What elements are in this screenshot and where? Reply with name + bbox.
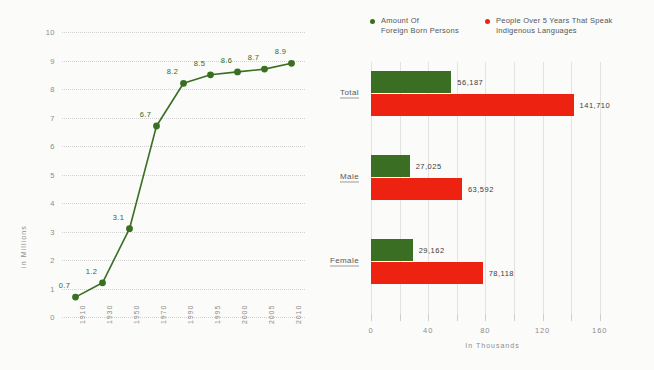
y-axis-tick-label: 0 — [50, 313, 55, 322]
x-axis-tick-label: 0 — [368, 326, 373, 335]
data-point — [234, 69, 241, 76]
bar — [371, 239, 413, 261]
bar — [371, 71, 451, 93]
x-axis-tick-label: 1910 — [79, 305, 86, 324]
legend-dot-icon — [485, 19, 490, 24]
y-axis-tick-label: 4 — [50, 199, 55, 208]
data-point — [180, 80, 187, 87]
y-axis-tick-label: 8 — [50, 85, 55, 94]
y-axis-tick-label: 6 — [50, 142, 55, 151]
axis-tick — [543, 314, 544, 321]
bar-value-label: 63,592 — [468, 184, 494, 193]
x-axis-tick-label: 1995 — [214, 305, 221, 324]
axis-tick — [457, 314, 458, 321]
axis-tick — [371, 314, 372, 321]
legend-label-line: Foreign Born Persons — [381, 26, 459, 36]
bar — [371, 155, 410, 177]
axis-tick — [600, 314, 601, 321]
axis-tick — [485, 314, 486, 321]
x-axis-tick-label: 1970 — [160, 305, 167, 324]
legend-item: Amount OfForeign Born Persons — [370, 16, 459, 36]
bar-value-label: 29,162 — [419, 245, 445, 254]
bar-value-label: 27,025 — [416, 161, 442, 170]
axis-tick — [571, 314, 572, 321]
bar-value-label: 78,118 — [489, 268, 514, 277]
bar-value-label: 56,187 — [457, 77, 483, 86]
legend-label-line: People Over 5 Years That Speak — [496, 16, 613, 26]
line-chart-plot-area: 012345678910 0.71.23.16.78.28.58.68.78.9… — [62, 32, 305, 317]
y-axis-tick-label: 9 — [50, 56, 55, 65]
bar-group-label: Female — [330, 256, 359, 267]
bar-chart-plot-area: 04080120160 In Thousands Total56,187141,… — [371, 62, 614, 314]
data-point-label: 8.5 — [194, 59, 206, 68]
bar-chart-legend: Amount OfForeign Born PersonsPeople Over… — [370, 16, 650, 36]
data-point-label: 3.1 — [113, 213, 125, 222]
y-axis-tick-label: 1 — [50, 284, 55, 293]
y-axis-tick-label: 2 — [50, 256, 55, 265]
bar — [371, 262, 483, 284]
legend-label: People Over 5 Years That SpeakIndigenous… — [496, 16, 613, 36]
bar-value-label: 141,710 — [580, 100, 611, 109]
bar-group-label: Total — [340, 88, 359, 99]
x-axis-tick-label: 80 — [480, 326, 490, 335]
y-axis-tick-label: 3 — [50, 227, 55, 236]
x-axis-tick-label: 1930 — [106, 305, 113, 324]
data-point — [288, 60, 295, 67]
line-chart-series — [62, 32, 305, 317]
data-point — [126, 225, 133, 232]
data-point-label: 0.7 — [59, 281, 71, 290]
x-axis-tick-label: 160 — [592, 326, 607, 335]
x-axis-tick-label: 120 — [535, 326, 550, 335]
y-axis-tick-label: 5 — [50, 170, 55, 179]
bar — [371, 94, 574, 116]
y-axis-tick-label: 7 — [50, 113, 55, 122]
x-axis-tick-label: 1950 — [133, 305, 140, 324]
axis-tick — [400, 314, 401, 321]
data-point — [153, 123, 160, 130]
legend-label-line: Amount Of — [381, 16, 459, 26]
data-point — [99, 279, 106, 286]
infographic-page: in Millions 012345678910 0.71.23.16.78.2… — [0, 0, 654, 370]
y-axis-tick-label: 10 — [46, 28, 55, 37]
data-point — [261, 66, 268, 73]
legend-label: Amount OfForeign Born Persons — [381, 16, 459, 36]
bar-chart-x-axis-title: In Thousands — [465, 342, 519, 349]
legend-item: People Over 5 Years That SpeakIndigenous… — [485, 16, 613, 36]
bar — [371, 178, 462, 200]
data-point-label: 8.7 — [248, 53, 260, 62]
x-axis-tick-label: 2010 — [295, 305, 302, 324]
data-point-label: 8.6 — [221, 56, 233, 65]
x-axis-tick-label: 1990 — [187, 305, 194, 324]
data-point-label: 8.2 — [167, 67, 179, 76]
data-point-label: 8.9 — [275, 47, 287, 56]
data-point-label: 1.2 — [86, 267, 98, 276]
x-axis-tick-label: 40 — [423, 326, 433, 335]
axis-tick — [514, 314, 515, 321]
x-axis-tick-label: 2000 — [241, 305, 248, 324]
bar-group-label: Male — [340, 172, 359, 183]
data-point-label: 6.7 — [140, 110, 152, 119]
line-path — [76, 63, 292, 297]
bar-chart: Amount OfForeign Born PersonsPeople Over… — [330, 0, 654, 370]
legend-label-line: Indigenous Languages — [496, 26, 613, 36]
legend-dot-icon — [370, 19, 375, 24]
x-axis-tick-label: 2005 — [268, 305, 275, 324]
axis-tick — [428, 314, 429, 321]
line-chart-y-axis-title: in Millions — [20, 225, 27, 268]
line-chart: in Millions 012345678910 0.71.23.16.78.2… — [0, 0, 330, 370]
data-point — [207, 71, 214, 78]
data-point — [72, 294, 79, 301]
